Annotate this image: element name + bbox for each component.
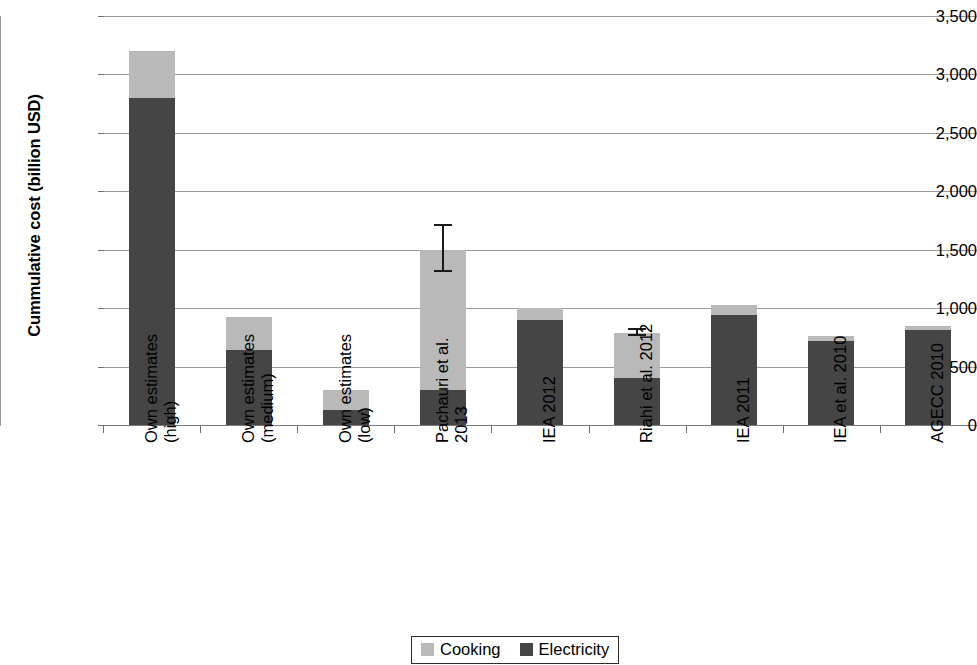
chart-legend: Cooking Electricity bbox=[411, 636, 619, 664]
bar-group bbox=[711, 16, 757, 425]
bar-segment-electricity bbox=[711, 315, 757, 425]
y-axis-tick-label: 2,000 bbox=[885, 183, 977, 200]
y-axis-tick bbox=[98, 367, 104, 368]
bar-group bbox=[614, 16, 660, 425]
error-bar bbox=[442, 224, 444, 272]
bar-segment-electricity bbox=[614, 378, 660, 425]
y-axis-tick-label: 3,500 bbox=[885, 8, 977, 25]
bar-group bbox=[808, 16, 854, 425]
y-axis-title: Cummulative cost (billion USD) bbox=[25, 16, 44, 416]
x-axis-tick bbox=[686, 426, 687, 433]
y-axis-tick bbox=[98, 250, 104, 251]
bar-group bbox=[420, 16, 466, 425]
y-axis-tick bbox=[98, 133, 104, 134]
y-axis-tick-label: 3,000 bbox=[885, 66, 977, 83]
y-axis-tick bbox=[98, 16, 104, 17]
legend-item-cooking: Cooking bbox=[421, 640, 501, 659]
legend-swatch-cooking bbox=[421, 643, 434, 656]
bar-segment-electricity bbox=[420, 390, 466, 425]
x-axis-tick bbox=[783, 426, 784, 433]
bar-segment-cooking bbox=[226, 317, 272, 350]
bar-segment-cooking bbox=[614, 333, 660, 379]
bar-segment-electricity bbox=[517, 320, 563, 425]
x-axis-tick bbox=[394, 426, 395, 433]
bar-segment-cooking bbox=[905, 326, 951, 331]
y-axis-tick-label: 1,500 bbox=[885, 241, 977, 258]
x-axis-tick bbox=[589, 426, 590, 433]
error-bar-cap-bottom bbox=[434, 270, 452, 272]
bar-segment-electricity bbox=[323, 410, 369, 425]
bar-group bbox=[129, 16, 175, 425]
bar-segment-cooking bbox=[517, 308, 563, 320]
error-bar-cap-top bbox=[628, 328, 646, 330]
legend-label-electricity: Electricity bbox=[539, 640, 610, 659]
x-axis-tick bbox=[297, 426, 298, 433]
gridline bbox=[103, 425, 977, 426]
plot-area bbox=[103, 16, 977, 425]
bar-chart: Cummulative cost (billion USD) 3,5003,00… bbox=[0, 0, 977, 665]
error-bar-cap-bottom bbox=[628, 334, 646, 336]
x-axis-tick bbox=[880, 426, 881, 433]
bar-segment-cooking bbox=[808, 336, 854, 341]
x-axis-tick bbox=[200, 426, 201, 433]
bar-group bbox=[517, 16, 563, 425]
x-axis-tick bbox=[491, 426, 492, 433]
y-axis-tick-label: 0 bbox=[885, 417, 977, 434]
bar-segment-cooking bbox=[129, 51, 175, 98]
y-axis-tick bbox=[98, 191, 104, 192]
y-axis-tick-label: 500 bbox=[885, 358, 977, 375]
legend-swatch-electricity bbox=[520, 643, 533, 656]
legend-label-cooking: Cooking bbox=[440, 640, 501, 659]
bar-group bbox=[323, 16, 369, 425]
bar-segment-cooking bbox=[323, 390, 369, 410]
bar-segment-electricity bbox=[905, 330, 951, 425]
bar-segment-electricity bbox=[129, 98, 175, 425]
x-axis-tick bbox=[103, 426, 104, 433]
y-axis-tick bbox=[98, 308, 104, 309]
bar-segment-cooking bbox=[711, 305, 757, 315]
y-axis-tick-label: 2,500 bbox=[885, 125, 977, 142]
bar-group bbox=[226, 16, 272, 425]
error-bar bbox=[636, 328, 638, 336]
legend-item-electricity: Electricity bbox=[520, 640, 610, 659]
bar-segment-electricity bbox=[808, 341, 854, 425]
error-bar-cap-top bbox=[434, 224, 452, 226]
y-axis-line bbox=[0, 16, 1, 426]
y-axis-tick-label: 1,000 bbox=[885, 300, 977, 317]
y-axis-tick bbox=[98, 74, 104, 75]
bar-segment-electricity bbox=[226, 350, 272, 425]
